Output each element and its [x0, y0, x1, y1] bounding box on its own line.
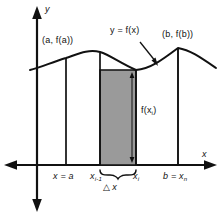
- x-axis-arrow-right: [204, 160, 217, 170]
- delta-x-brace: [100, 170, 136, 179]
- x-i-label: xi: [133, 172, 139, 181]
- y-axis-arrow-down: [32, 199, 42, 212]
- delta-x-variable: x: [112, 182, 117, 192]
- x-axis-arrow-left: [4, 160, 17, 170]
- curve-equation-label: y = f(x): [110, 26, 139, 35]
- x-axis-label: x: [202, 150, 207, 159]
- y-axis-label: y: [45, 5, 50, 14]
- x-i-minus-1-label: xi-1: [90, 172, 102, 181]
- height-label-subscript: i: [152, 110, 154, 116]
- y-axis: [32, 6, 42, 212]
- b-equals-xn-base: b = x: [163, 171, 184, 181]
- function-curve: [30, 48, 216, 70]
- height-label-prefix: f(x: [141, 105, 152, 115]
- b-equals-xn-subscript: n: [184, 176, 188, 182]
- point-b-label: (b, f(b)): [162, 30, 193, 39]
- x-i-minus-1-subscript: i-1: [95, 176, 102, 182]
- triangle-icon: △: [103, 182, 110, 192]
- point-a-label: (a, f(a)): [42, 36, 73, 45]
- riemann-rectangle: [100, 70, 136, 165]
- delta-x-label: △x: [103, 183, 117, 192]
- x-i-minus-1-base: x: [90, 171, 95, 181]
- x-equals-a-label: x = a: [53, 172, 74, 181]
- y-axis-arrow-up: [32, 6, 42, 19]
- x-i-base: x: [133, 171, 138, 181]
- height-label-suffix: ): [153, 105, 156, 115]
- b-equals-xn-label: b = xn: [163, 172, 187, 181]
- riemann-sum-figure: y x (a, f(a)) y = f(x) (b, f(b)) f(xi) x…: [0, 0, 221, 217]
- rectangle-height-label: f(xi): [141, 106, 156, 115]
